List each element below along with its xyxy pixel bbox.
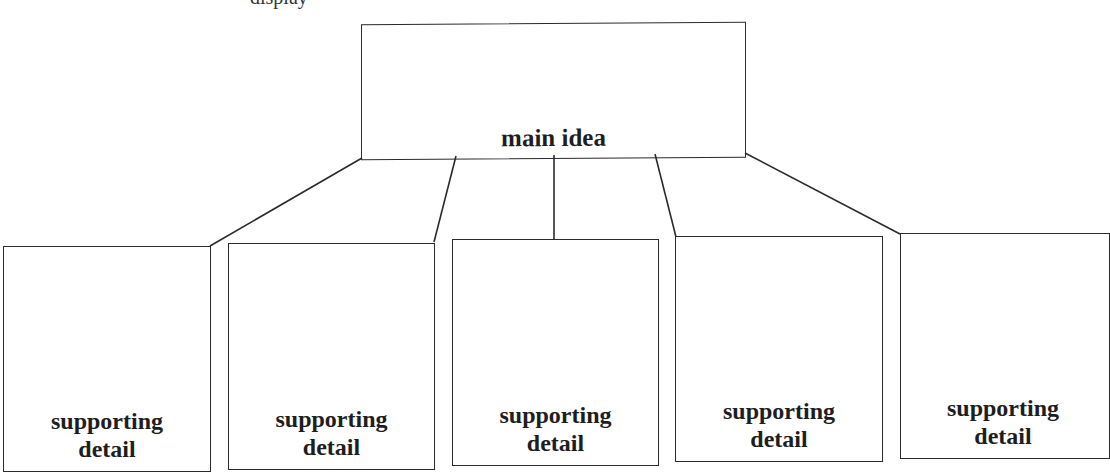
supporting-detail-box-3: supporting detail (452, 239, 659, 466)
connector-1 (210, 158, 362, 246)
connector-4 (655, 154, 676, 237)
connector-5 (745, 153, 900, 234)
supporting-detail-label: supporting detail (901, 394, 1105, 450)
main-idea-label: main idea (362, 123, 745, 154)
supporting-detail-label: supporting detail (453, 401, 658, 457)
supporting-detail-label: supporting detail (229, 405, 434, 461)
main-idea-box: main idea (361, 22, 746, 161)
supporting-detail-box-2: supporting detail (228, 243, 435, 470)
supporting-detail-box-1: supporting detail (3, 246, 211, 472)
supporting-detail-box-5: supporting detail (900, 233, 1110, 459)
supporting-detail-label: supporting detail (4, 407, 210, 463)
supporting-detail-label: supporting detail (676, 397, 882, 453)
connector-2 (434, 156, 456, 242)
supporting-detail-box-4: supporting detail (675, 236, 883, 462)
